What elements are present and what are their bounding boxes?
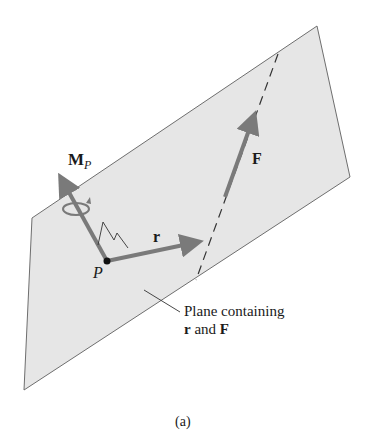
- plane-label: Plane containing r and F: [184, 302, 284, 338]
- p-label: P: [93, 264, 103, 282]
- r-label: r: [153, 228, 160, 246]
- f-label: F: [252, 150, 262, 168]
- figure-caption: (a): [175, 414, 191, 430]
- moment-diagram: [0, 0, 373, 439]
- moment-label: MP: [68, 150, 91, 173]
- point-p: [104, 258, 111, 265]
